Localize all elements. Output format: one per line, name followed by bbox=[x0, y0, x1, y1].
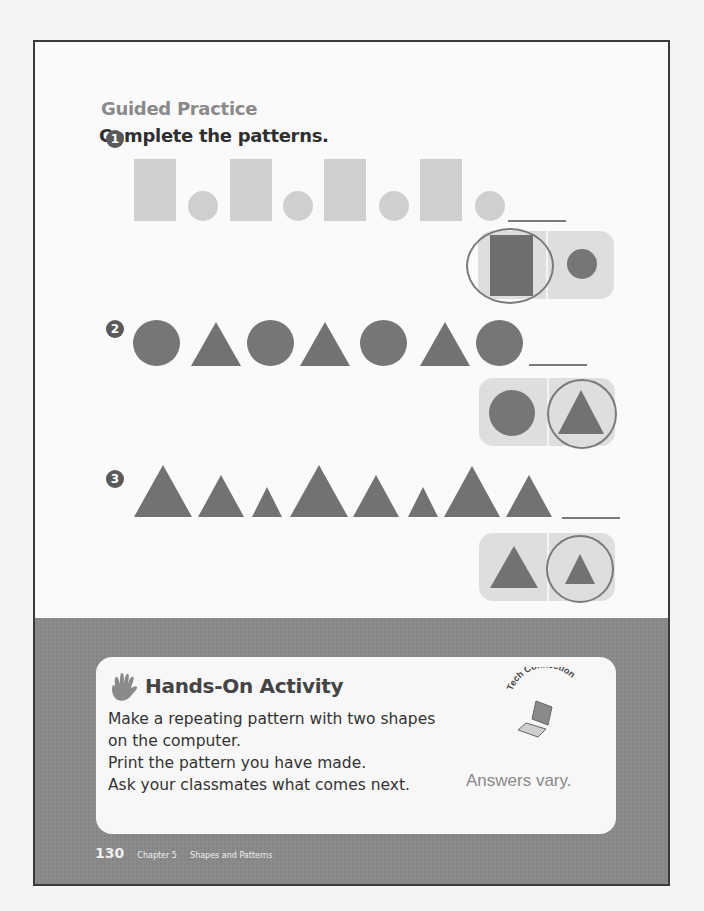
page-footer: 130 Chapter 5 Shapes and Patterns bbox=[95, 843, 272, 862]
pattern-rectangle bbox=[134, 159, 176, 221]
pattern-rectangle bbox=[324, 159, 366, 221]
pattern-circle bbox=[379, 191, 409, 221]
pattern-circle bbox=[475, 191, 505, 221]
hands-on-activity-card: Hands-On Activity Make a repeating patte… bbox=[96, 657, 616, 834]
activity-line: Print the pattern you have made. bbox=[108, 754, 366, 772]
pattern-triangle-small bbox=[252, 487, 282, 517]
answer-note: Answers vary. bbox=[466, 771, 572, 791]
page-number: 130 bbox=[95, 845, 124, 861]
answer-blank[interactable] bbox=[562, 517, 620, 519]
instruction: Complete the patterns. bbox=[99, 125, 329, 146]
chapter-title: Shapes and Patterns bbox=[190, 851, 272, 860]
answer-blank[interactable] bbox=[529, 364, 587, 366]
tech-connection-badge: Tech Connection bbox=[500, 667, 600, 747]
textbook-page: Guided Practice Complete the patterns. 1… bbox=[33, 40, 670, 886]
answer-blank[interactable] bbox=[508, 220, 566, 222]
pattern-rectangle bbox=[420, 159, 462, 221]
activity-line: on the computer. bbox=[108, 732, 241, 750]
choice-circle[interactable] bbox=[567, 249, 597, 279]
pattern-circle bbox=[247, 320, 294, 366]
svg-text:Tech Connection: Tech Connection bbox=[505, 667, 577, 692]
pattern-circle bbox=[476, 320, 523, 366]
pattern-circle bbox=[283, 191, 313, 221]
pattern-triangle-large bbox=[134, 465, 192, 517]
section-label: Guided Practice bbox=[101, 98, 257, 119]
laptop-icon bbox=[518, 701, 552, 737]
activity-line: Make a repeating pattern with two shapes bbox=[108, 710, 435, 728]
activity-title: Hands-On Activity bbox=[145, 674, 343, 698]
pattern-triangle-medium bbox=[198, 475, 244, 517]
chapter-label: Chapter 5 bbox=[137, 851, 177, 860]
hand-icon bbox=[108, 669, 142, 703]
pattern-triangle-small bbox=[408, 487, 438, 517]
answer-circle-mark bbox=[546, 535, 614, 603]
pattern-triangle-large bbox=[444, 466, 500, 517]
pattern-triangle bbox=[191, 322, 241, 366]
pattern-triangle-medium bbox=[353, 475, 399, 517]
pattern-circle bbox=[360, 320, 407, 366]
pattern-triangle bbox=[420, 322, 470, 366]
pattern-triangle-large bbox=[290, 465, 348, 517]
answer-circle-mark bbox=[547, 379, 617, 449]
tech-connection-label: Tech Connection bbox=[505, 667, 577, 692]
activity-line: Ask your classmates what comes next. bbox=[108, 776, 410, 794]
pattern-rectangle bbox=[230, 159, 272, 221]
problem-number-badge: 2 bbox=[106, 320, 124, 338]
pattern-circle bbox=[188, 191, 218, 221]
answer-circle-mark bbox=[466, 228, 554, 304]
pattern-circle bbox=[133, 320, 180, 366]
pattern-triangle bbox=[300, 322, 350, 366]
pattern-triangle-medium bbox=[506, 475, 552, 517]
choice-circle[interactable] bbox=[489, 390, 535, 436]
problem-number-badge: 1 bbox=[106, 130, 124, 148]
choice-triangle-medium[interactable] bbox=[490, 546, 538, 588]
problem-number-badge: 3 bbox=[106, 470, 124, 488]
